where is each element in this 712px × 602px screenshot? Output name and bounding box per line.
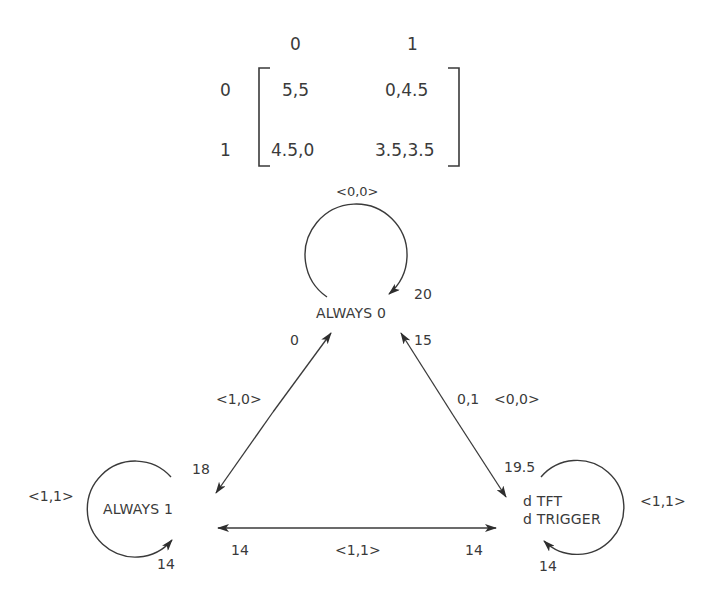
always1-loop-value: 14 bbox=[157, 557, 175, 571]
edge-always1-dtft-action: <1,1> bbox=[335, 543, 381, 557]
matrix-cell-0-1: 0,4.5 bbox=[385, 82, 428, 99]
edge-always0-dtft-prob: 0,1 bbox=[457, 392, 479, 406]
edge-always0-always1-action: <1,0> bbox=[216, 392, 262, 406]
always0-loop-value: 20 bbox=[414, 287, 432, 301]
matrix-row-header-1: 1 bbox=[220, 142, 231, 159]
matrix-col-header-0: 0 bbox=[290, 36, 301, 53]
dtft-loop-value: 14 bbox=[539, 559, 557, 573]
edge-always0-dtft-value-bottom: 19.5 bbox=[504, 460, 535, 474]
matrix-left-bracket bbox=[259, 68, 270, 166]
always1-loop-action: <1,1> bbox=[28, 489, 74, 503]
edge-always0-always1-b bbox=[216, 412, 273, 493]
matrix-right-bracket bbox=[448, 68, 459, 166]
matrix-cell-1-1: 3.5,3.5 bbox=[375, 142, 434, 159]
matrix-cell-1-0: 4.5,0 bbox=[271, 142, 314, 159]
node-always1: ALWAYS 1 bbox=[103, 502, 173, 516]
node-dtft-line2: d TRIGGER bbox=[523, 512, 601, 526]
edge-always0-always1 bbox=[273, 333, 331, 412]
always0-loop-action: <0,0> bbox=[336, 185, 378, 198]
edge-always0-dtft-b bbox=[453, 415, 506, 497]
edge-always1-dtft-value-right: 14 bbox=[465, 543, 483, 557]
edge-always1-dtft-value-left: 14 bbox=[231, 543, 249, 557]
matrix-row-header-0: 0 bbox=[220, 82, 231, 99]
matrix-cell-0-0: 5,5 bbox=[282, 82, 309, 99]
always0-self-loop bbox=[305, 204, 407, 297]
edge-always0-dtft-value-top: 15 bbox=[414, 333, 432, 347]
node-always0: ALWAYS 0 bbox=[316, 306, 386, 320]
node-dtft-line1: d TFT bbox=[523, 494, 562, 508]
matrix-col-header-1: 1 bbox=[407, 36, 418, 53]
edge-always0-dtft-action: <0,0> bbox=[494, 392, 540, 406]
edge-always0-always1-value-top: 0 bbox=[290, 333, 299, 347]
dtft-loop-action: <1,1> bbox=[640, 494, 686, 508]
edge-always0-always1-value-bottom: 18 bbox=[192, 462, 210, 476]
